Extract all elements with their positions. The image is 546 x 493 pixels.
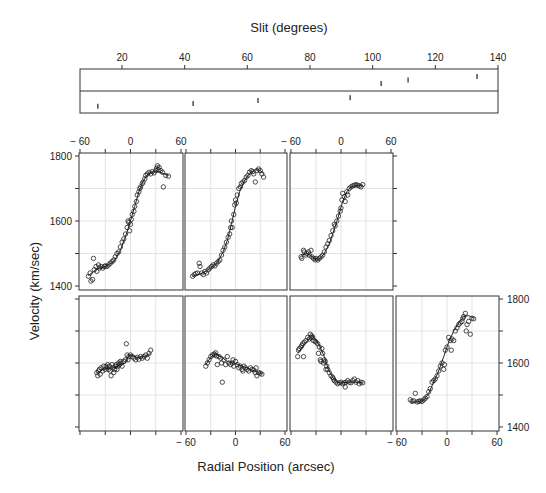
data-point <box>449 348 453 352</box>
x-tick-label: 0 <box>444 437 450 448</box>
strip-tick-label: 20 <box>116 52 128 63</box>
panel-slit-133.3: − 60060140016001800 <box>50 136 187 292</box>
data-point <box>225 354 229 358</box>
y-tick-label: 1600 <box>50 216 73 227</box>
strip-axis-title: Slit (degrees) <box>250 20 327 35</box>
panel-slit-92.8: − 60060140016001800 <box>387 294 530 448</box>
data-point <box>220 380 224 384</box>
panel-slit-12.3 <box>75 296 183 435</box>
x-tick-label: − 60 <box>387 437 407 448</box>
fitted-curve <box>298 336 363 383</box>
data-point <box>253 180 257 184</box>
strip-tick-label: 80 <box>304 52 316 63</box>
x-tick-label: 0 <box>233 437 239 448</box>
data-point <box>296 354 300 358</box>
x-tick-label: − 60 <box>176 437 196 448</box>
panel-slit-63.4 <box>290 296 393 435</box>
panel-slit-102.7: − 60060 <box>281 136 397 290</box>
x-tick-label: − 60 <box>70 136 90 147</box>
y-tick-label: 1800 <box>507 294 530 305</box>
data-point <box>91 256 95 260</box>
x-tick-label: 60 <box>175 136 187 147</box>
panel-slit-42.7: − 60060 <box>176 296 291 448</box>
x-tick-label: 60 <box>279 437 291 448</box>
x-tick-label: 60 <box>491 437 503 448</box>
y-tick-label: 1600 <box>507 358 530 369</box>
panel-slit-111.3 <box>185 149 287 290</box>
strip-tick-label: 140 <box>490 52 507 63</box>
chart-figure: Slit (degrees) 20406080100120140 − 60060… <box>0 0 546 493</box>
fitted-curve <box>410 316 473 402</box>
x-tick-label: 0 <box>338 136 344 147</box>
data-point <box>124 342 128 346</box>
x-tick-label: 60 <box>385 136 397 147</box>
data-point <box>128 229 132 233</box>
velocity-panels: − 60060140016001800− 60060− 60060− 60060… <box>50 136 530 448</box>
data-point <box>300 256 304 260</box>
data-point <box>316 351 320 355</box>
y-axis-title: Velocity (km/sec) <box>27 242 42 340</box>
fitted-curve <box>193 170 264 277</box>
x-tick-label: 0 <box>128 136 134 147</box>
x-axis-title: Radial Position (arcsec) <box>197 459 334 474</box>
slit-strip-panel: 20406080100120140 <box>80 52 507 113</box>
data-point <box>166 174 170 178</box>
strip-tick-label: 100 <box>364 52 381 63</box>
strip-tick-label: 40 <box>179 52 191 63</box>
strip-tick-label: 120 <box>427 52 444 63</box>
x-tick-label: − 60 <box>281 136 301 147</box>
data-point <box>442 367 446 371</box>
data-point <box>343 385 347 389</box>
y-tick-label: 1800 <box>50 151 73 162</box>
y-tick-label: 1400 <box>50 281 73 292</box>
strip-tick-label: 60 <box>242 52 254 63</box>
y-tick-label: 1400 <box>507 422 530 433</box>
data-point <box>301 354 305 358</box>
